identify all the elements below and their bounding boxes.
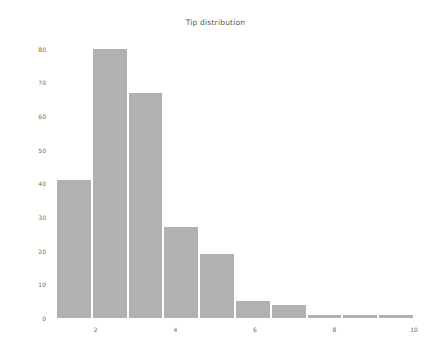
x-axis-tick-label: 4 — [173, 326, 177, 333]
x-axis-tick-label: 8 — [333, 326, 337, 333]
x-axis-tick-label: 2 — [94, 326, 98, 333]
tip-distribution-histogram-figure: Tip distribution 01020304050607080 24681… — [0, 0, 431, 352]
x-axis-tick-label: 10 — [410, 326, 418, 333]
x-axis-tick-labels: 246810 — [0, 0, 431, 352]
x-axis-tick-label: 6 — [253, 326, 257, 333]
